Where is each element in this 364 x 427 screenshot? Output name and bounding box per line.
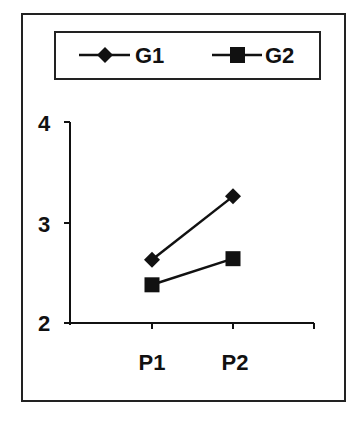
x-tick-label-p1: P1 (139, 350, 166, 375)
x-axis: P1 P2 (70, 323, 314, 375)
square-marker-icon (145, 277, 160, 292)
square-marker-icon (230, 47, 245, 63)
series-layer (144, 188, 241, 292)
y-tick-label-3: 3 (38, 212, 50, 237)
x-tick-label-p2: P2 (222, 350, 249, 375)
legend-label-g1: G1 (135, 43, 164, 68)
series-g2 (145, 251, 241, 292)
legend: G1 G2 (55, 32, 320, 79)
y-tick-label-2: 2 (38, 311, 50, 336)
legend-label-g2: G2 (265, 43, 294, 68)
chart: G1 G2 4 3 2 P1 P2 (0, 0, 364, 427)
legend-item-g2: G2 (212, 43, 294, 68)
diamond-marker-icon (97, 47, 113, 63)
y-axis: 4 3 2 (38, 111, 70, 336)
square-marker-icon (226, 251, 241, 266)
y-tick-label-4: 4 (38, 111, 51, 136)
legend-item-g1: G1 (79, 43, 164, 68)
